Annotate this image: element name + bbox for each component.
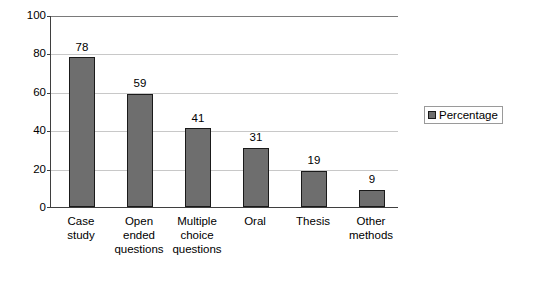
x-label-line: Oral <box>227 214 283 228</box>
bar-other-methods <box>359 190 385 207</box>
bar-value-label: 59 <box>117 77 163 89</box>
bar-value-label: 9 <box>349 173 395 185</box>
x-label-oral: Oral <box>227 214 283 228</box>
plot-area: 78 59 41 31 19 9 <box>50 16 398 208</box>
bar-case-study <box>69 57 95 207</box>
bar-chart: 100 80 60 40 20 0 78 59 41 31 19 <box>0 0 538 283</box>
bar-value-label: 78 <box>59 41 105 53</box>
y-tick-label: 80 <box>0 48 46 60</box>
x-label-line: Other <box>343 214 399 228</box>
bar-oral <box>243 148 269 208</box>
x-label-case-study: Case study <box>53 214 109 242</box>
legend: Percentage <box>424 106 503 124</box>
x-axis-category-labels: Case study Open ended questions Multiple… <box>50 214 398 274</box>
bar-multiple-choice-questions <box>185 128 211 207</box>
y-tick-mark-0 <box>47 207 51 208</box>
x-label-line: Open <box>111 214 167 228</box>
y-tick-label: 100 <box>0 10 46 22</box>
y-tick-label: 60 <box>0 87 46 99</box>
bar-open-ended-questions <box>127 94 153 207</box>
legend-label: Percentage <box>439 109 498 121</box>
x-label-line: questions <box>169 242 225 256</box>
x-label-line: methods <box>343 228 399 242</box>
x-label-line: questions <box>111 242 167 256</box>
y-tick-label: 20 <box>0 164 46 176</box>
legend-swatch-icon <box>428 111 436 119</box>
x-label-line: Case <box>53 214 109 228</box>
x-label-line: study <box>53 228 109 242</box>
y-tick-label: 40 <box>0 125 46 137</box>
x-label-other-methods: Other methods <box>343 214 399 242</box>
bars-layer: 78 59 41 31 19 9 <box>51 16 398 207</box>
x-label-line: Multiple <box>169 214 225 228</box>
bar-value-label: 19 <box>291 154 337 166</box>
bar-thesis <box>301 171 327 208</box>
bar-value-label: 41 <box>175 112 221 124</box>
y-tick-label: 0 <box>0 202 46 214</box>
x-label-line: Thesis <box>285 214 341 228</box>
bar-value-label: 31 <box>233 131 279 143</box>
y-axis-tick-labels: 100 80 60 40 20 0 <box>0 0 46 283</box>
x-label-open-ended-questions: Open ended questions <box>111 214 167 256</box>
x-label-line: ended <box>111 228 167 242</box>
x-label-thesis: Thesis <box>285 214 341 228</box>
x-label-multiple-choice-questions: Multiple choice questions <box>169 214 225 256</box>
x-label-line: choice <box>169 228 225 242</box>
